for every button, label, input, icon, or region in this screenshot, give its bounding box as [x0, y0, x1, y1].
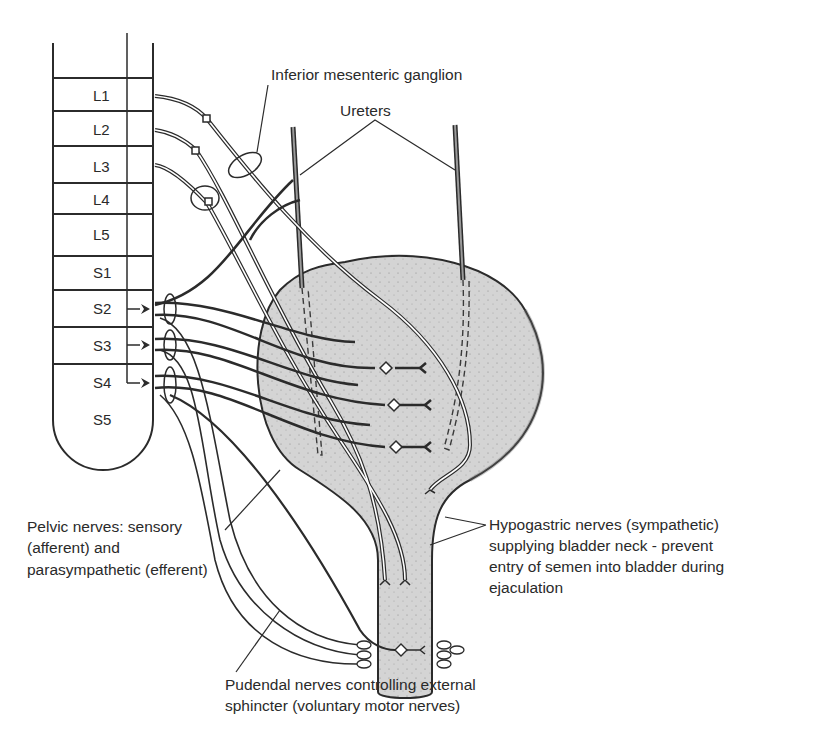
label-ureters: Ureters [340, 102, 391, 119]
bladder [257, 256, 543, 698]
segment-l1: L1 [93, 87, 110, 104]
label-hypogastric-nerves-line1: Hypogastric nerves (sympathetic) [489, 516, 719, 533]
segment-l3: L3 [93, 158, 110, 175]
segment-s4: S4 [93, 374, 111, 391]
segment-l2: L2 [93, 121, 110, 138]
label-pelvic-nerves-line3: parasympathetic (efferent) [27, 561, 208, 578]
label-pelvic-nerves-line2: (afferent) and [27, 539, 120, 556]
segment-s1: S1 [93, 264, 111, 281]
segment-l5: L5 [93, 226, 110, 243]
label-hypogastric-nerves-line4: ejaculation [489, 579, 563, 596]
label-pudendal-nerves-line1: Pudendal nerves controlling external [225, 676, 476, 693]
segment-l4: L4 [93, 191, 110, 208]
label-pelvic-nerves-line1: Pelvic nerves: sensory [27, 518, 182, 535]
label-hypogastric-nerves-line3: entry of semen into bladder during [489, 558, 724, 575]
label-pudendal-nerves-line2: sphincter (voluntary motor nerves) [225, 697, 460, 714]
bladder-innervation-diagram: L1 L2 L3 L4 L5 S1 S2 S3 S4 S5 [0, 0, 825, 743]
label-hypogastric-nerves-line2: supplying bladder neck - prevent [489, 537, 714, 554]
segment-s3: S3 [93, 337, 111, 354]
segment-s2: S2 [93, 300, 111, 317]
segment-s5: S5 [93, 411, 111, 428]
label-inferior-mesenteric-ganglion: Inferior mesenteric ganglion [271, 66, 462, 83]
